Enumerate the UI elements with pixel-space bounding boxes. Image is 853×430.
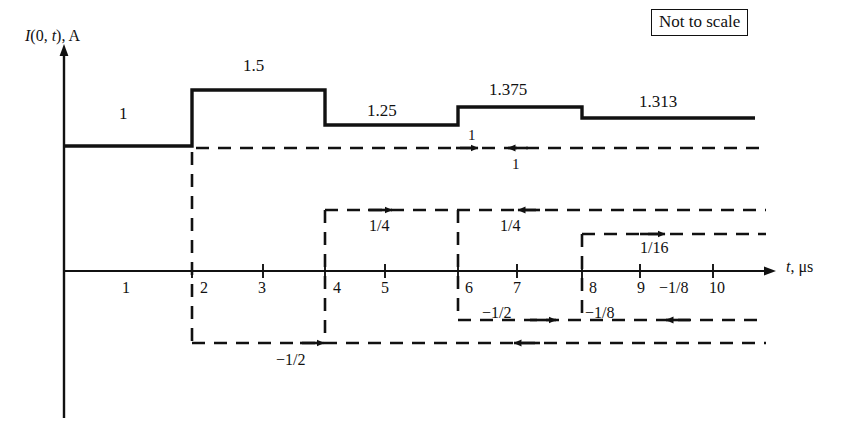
bounce-diagram-svg xyxy=(0,0,853,430)
wave-label-neg-eighth-lower: −1/8 xyxy=(585,305,614,321)
x-tick-label-7: 7 xyxy=(513,280,521,296)
wave-label-quarter-left: 1/4 xyxy=(369,218,389,234)
y-axis-arrowhead-icon xyxy=(60,44,69,56)
step-value-1-25: 1.25 xyxy=(367,102,397,119)
wave-label-one-bottom: 1 xyxy=(512,157,520,172)
x-tick-label-9: 9 xyxy=(637,280,645,296)
y-axis-label-close: ), A xyxy=(56,27,80,44)
wave-label-quarter-right: 1/4 xyxy=(500,218,520,234)
x-tick-label-3: 3 xyxy=(258,280,266,296)
x-tick-label-10: 10 xyxy=(709,280,725,296)
x-tick-label-6: 6 xyxy=(465,280,473,296)
x-axis-label: t, μs xyxy=(786,259,813,275)
x-axis-arrowhead-icon xyxy=(764,266,776,275)
x-axis-label-units: , μs xyxy=(790,258,813,275)
x-tick-label-4: 4 xyxy=(333,280,341,296)
y-axis-label: I(0, t), A xyxy=(25,28,80,44)
wave-label-neg-half-lower: −1/2 xyxy=(482,305,511,321)
wave-label-neg-half-bottom: −1/2 xyxy=(276,352,305,368)
wave-label-one-top: 1 xyxy=(468,128,476,143)
x-tick-label-2: 2 xyxy=(200,280,208,296)
step-value-1: 1 xyxy=(119,105,128,122)
bounce-lines-group xyxy=(192,148,766,343)
step-value-1-313: 1.313 xyxy=(639,93,677,110)
figure-canvas: Not to scale I(0, t), A t, μs 1 1.5 1.25… xyxy=(0,0,853,430)
step-value-1-5: 1.5 xyxy=(243,57,264,74)
wave-label-neg-eighth-axis: −1/8 xyxy=(659,280,688,296)
x-tick-label-5: 5 xyxy=(381,280,389,296)
x-tick-label-1: 1 xyxy=(122,280,130,296)
not-to-scale-box: Not to scale xyxy=(651,9,748,36)
x-tick-label-8: 8 xyxy=(589,280,597,296)
wave-label-sixteenth: 1/16 xyxy=(640,240,668,256)
y-axis-label-open: (0, xyxy=(30,27,51,44)
step-value-1-375: 1.375 xyxy=(489,81,527,98)
